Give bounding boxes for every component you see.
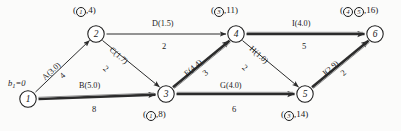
edge-I — [247, 32, 365, 34]
source-label-value: =0 — [16, 78, 26, 88]
node-label-4: (3,11) — [211, 6, 238, 17]
source-node-label: b1=0 — [8, 79, 26, 90]
node-label-3-text: ,8) — [156, 109, 166, 119]
edge-label-G-cost: 6 — [232, 105, 236, 114]
edge-B — [39, 93, 156, 99]
edge-label-D-cost: 2 — [162, 42, 166, 51]
circled-pred-1: 1 — [76, 7, 86, 17]
node-number-5: 5 — [297, 90, 313, 100]
circled-pred-3: 3 — [214, 7, 224, 17]
node-label-6-text: ,16) — [364, 5, 378, 15]
node-number-6: 6 — [367, 30, 383, 40]
edge-label-I-name: I(4.0) — [292, 20, 310, 28]
node-label-2: (1,4) — [73, 6, 96, 17]
node-number-3: 3 — [158, 90, 174, 100]
circled-pred-4: 4 — [343, 7, 353, 17]
node-number-1: 1 — [20, 95, 36, 105]
circled-pred-3: 3 — [284, 111, 294, 121]
circled-pred-5: 5 — [354, 7, 364, 17]
edge-label-B-cost: 8 — [92, 105, 96, 114]
node-number-4: 4 — [228, 30, 244, 40]
node-label-4-text: ,11) — [224, 5, 238, 15]
edge-label-B-name: B(5.0) — [79, 82, 100, 90]
node-number-2: 2 — [88, 30, 104, 40]
edge-G — [177, 92, 295, 94]
edge-label-G-name: G(4.0) — [220, 82, 242, 90]
node-label-5-text: ,14) — [294, 109, 308, 119]
edge-J — [312, 41, 370, 89]
node-label-6: (45,16) — [340, 6, 378, 17]
node-label-5: (3,14) — [281, 110, 308, 121]
diagram-canvas: 1 2 3 4 5 6 b1=0 (1,4) (1,8) (3,11) (3,1… — [0, 0, 401, 131]
edge-label-D-name: D(1.5) — [152, 20, 174, 28]
circled-pred-1: 1 — [146, 111, 156, 121]
edge-label-I-cost: 5 — [302, 42, 306, 51]
node-label-3: (1,8) — [143, 110, 166, 121]
node-label-2-text: ,4) — [86, 5, 96, 15]
